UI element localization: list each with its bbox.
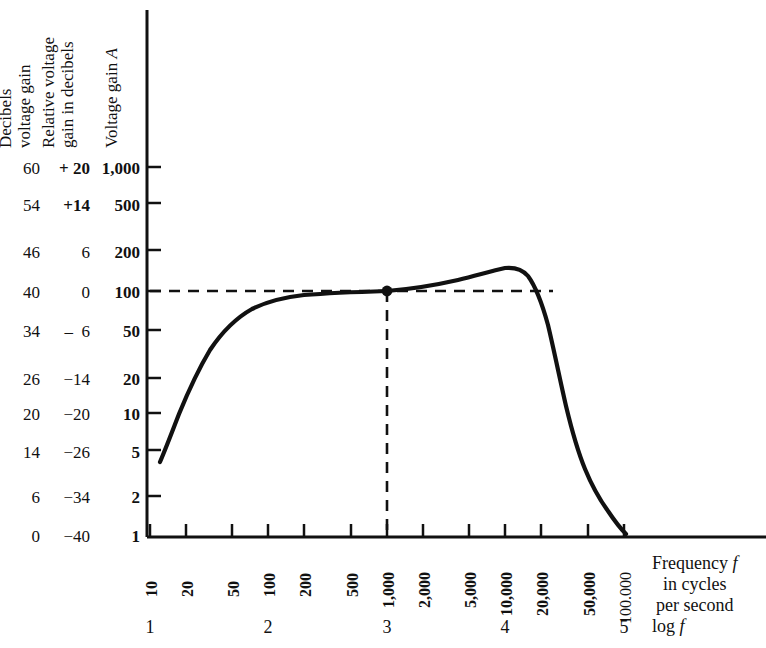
x-axis-caption-line2: in cycles — [652, 574, 738, 595]
x-axis-caption: Frequency f in cycles per second — [652, 553, 738, 617]
xtick-label-1000: 1,000 — [381, 572, 397, 608]
y-axis-ticks — [147, 167, 161, 496]
x-axis-caption-line3: per second — [652, 595, 738, 616]
xtick-label-100: 100 — [262, 573, 278, 597]
decade-label-5: 5 — [612, 618, 636, 636]
x-axis-caption-line1-text: Frequency f — [652, 553, 738, 573]
xtick-label-20: 20 — [180, 581, 196, 597]
log-f-label-text: log f — [652, 616, 685, 636]
xtick-label-10000: 10,000 — [499, 572, 515, 616]
operating-point-marker — [382, 286, 393, 297]
decade-label-2: 2 — [256, 618, 280, 636]
plot-area — [0, 0, 766, 648]
response-curve — [160, 268, 626, 534]
decade-label-3: 3 — [375, 618, 399, 636]
decade-label-4: 4 — [493, 618, 517, 636]
xtick-label-2000: 2,000 — [417, 572, 433, 608]
xtick-label-500: 500 — [345, 573, 361, 597]
x-axis-caption-line1: Frequency f — [652, 553, 738, 574]
decade-label-1: 1 — [138, 618, 162, 636]
xtick-label-50: 50 — [226, 581, 242, 597]
xtick-label-10: 10 — [144, 581, 160, 597]
xtick-label-200: 200 — [298, 573, 314, 597]
xtick-label-5000: 5,000 — [463, 572, 479, 608]
figure-voltage-gain-vs-frequency: Decibels voltage gain Relative voltage g… — [0, 0, 766, 648]
log-f-label: log f — [652, 617, 685, 635]
xtick-label-50000: 50,000 — [582, 572, 598, 616]
xtick-label-20000: 20,000 — [535, 572, 551, 616]
